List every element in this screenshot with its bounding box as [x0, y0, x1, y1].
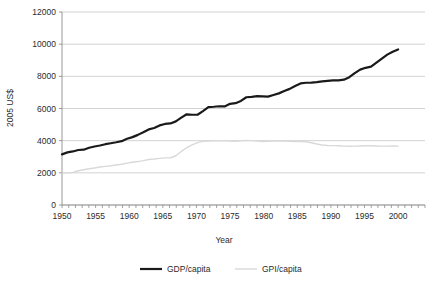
legend-label: GPI/capita	[262, 264, 302, 274]
x-axis-title: Year	[215, 235, 232, 245]
x-tick-label-1995: 1995	[355, 211, 374, 221]
gdp-gpi-per-capita-line-chart: 020004000600080001000012000 195019551960…	[0, 0, 441, 293]
y-tick-label-12000: 12000	[32, 7, 56, 17]
y-tick-label-6000: 6000	[37, 104, 56, 114]
y-axis-title: 2005 US$	[5, 89, 15, 127]
x-tick-label-1985: 1985	[288, 211, 307, 221]
x-tick-label-2000: 2000	[389, 211, 408, 221]
x-tick-label-1970: 1970	[187, 211, 206, 221]
y-tick-label-4000: 4000	[37, 136, 56, 146]
x-tick-label-1955: 1955	[86, 211, 105, 221]
y-tick-label-0: 0	[51, 200, 56, 210]
y-tick-label-2000: 2000	[37, 168, 56, 178]
legend-label: GDP/capita	[167, 264, 211, 274]
x-tick-label-1980: 1980	[254, 211, 273, 221]
y-tick-label-8000: 8000	[37, 71, 56, 81]
x-tick-label-1975: 1975	[221, 211, 240, 221]
x-tick-label-1990: 1990	[321, 211, 340, 221]
x-tick-label-1950: 1950	[53, 211, 72, 221]
x-tick-label-1965: 1965	[153, 211, 172, 221]
x-tick-label-1960: 1960	[120, 211, 139, 221]
chart-container: 020004000600080001000012000 195019551960…	[0, 0, 441, 293]
y-tick-label-10000: 10000	[32, 39, 56, 49]
